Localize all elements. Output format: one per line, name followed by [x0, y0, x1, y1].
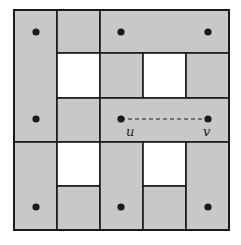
- node-v: [204, 115, 211, 122]
- region-right-bottom-tall: [186, 142, 229, 230]
- region-left-bottom-tall: [14, 142, 57, 230]
- node-3: [32, 115, 39, 122]
- grid-diagram: u v: [0, 0, 241, 245]
- region-r1c4: [186, 53, 229, 98]
- region-r1c2: [100, 53, 143, 98]
- region-r3c3: [143, 142, 186, 186]
- node-0: [32, 28, 39, 35]
- region-r1c3: [143, 53, 186, 98]
- node-6: [32, 203, 39, 210]
- label-u: u: [126, 124, 134, 139]
- region-r2c1: [57, 98, 100, 142]
- region-r0c1: [57, 10, 100, 53]
- node-u: [117, 115, 124, 122]
- region-mid-bottom-tall: [100, 142, 143, 230]
- region-r4c3: [143, 186, 186, 230]
- node-2: [204, 28, 211, 35]
- node-8: [204, 203, 211, 210]
- label-v: v: [203, 124, 211, 139]
- node-1: [117, 28, 124, 35]
- region-r3c1: [57, 142, 100, 186]
- region-r4c1: [57, 186, 100, 230]
- region-r1c1: [57, 53, 100, 98]
- node-7: [117, 203, 124, 210]
